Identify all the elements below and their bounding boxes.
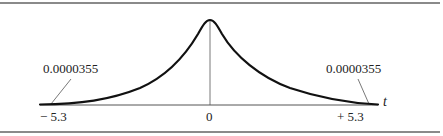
left-value-label: 0.0000355: [43, 62, 98, 76]
tick-label-left: − 5.3: [40, 110, 67, 124]
right-value-label: 0.0000355: [326, 62, 381, 76]
tick-label-center: 0: [206, 110, 213, 124]
x-axis-variable-label: t: [383, 95, 387, 109]
tick-label-right: + 5.3: [337, 110, 364, 124]
left-leader-line: [51, 79, 71, 104]
right-leader-line: [358, 79, 369, 104]
